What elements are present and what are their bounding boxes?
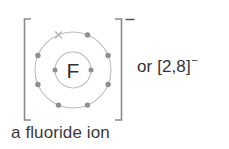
bracket-right bbox=[115, 19, 122, 120]
figure-caption: a fluoride ion bbox=[11, 124, 110, 141]
electron-dot bbox=[35, 82, 40, 87]
electron-dot bbox=[85, 32, 90, 37]
alt-notation-configuration: 2,8 bbox=[162, 57, 186, 76]
electron-dot bbox=[105, 53, 110, 58]
fluoride-ion-diagram: F bbox=[0, 0, 150, 125]
alt-notation-prefix: or bbox=[137, 57, 152, 76]
alt-notation-charge: − bbox=[191, 54, 198, 66]
shell-diagram-svg: F bbox=[0, 0, 150, 125]
electron-dot bbox=[89, 68, 94, 73]
ion-diagram-figure: F or [2,8]− a fluoride ion bbox=[0, 0, 229, 149]
cross-electron-marker bbox=[56, 32, 62, 38]
electron-dot bbox=[105, 82, 110, 87]
electron-dot bbox=[85, 102, 90, 107]
element-symbol: F bbox=[67, 59, 80, 82]
bracket-left bbox=[25, 19, 32, 120]
alternate-notation: or [2,8]− bbox=[137, 56, 197, 75]
electron-dot bbox=[35, 53, 40, 58]
electron-dot bbox=[56, 102, 61, 107]
electron-dot bbox=[53, 68, 58, 73]
